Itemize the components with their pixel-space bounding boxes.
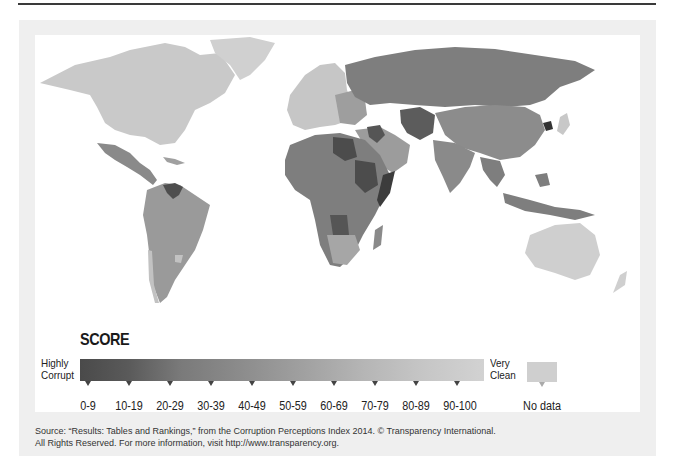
region-southeast-asia (480, 157, 595, 220)
world-map (35, 35, 640, 325)
tick-marker (454, 381, 460, 386)
tick-marker (126, 381, 132, 386)
legend-no-data-swatch (527, 362, 557, 382)
label-line: Clean (490, 369, 516, 381)
range-label: 60-69 (320, 399, 348, 413)
legend-title: SCORE (80, 330, 129, 350)
range-label: 70-79 (361, 399, 389, 413)
tick-marker (85, 381, 91, 386)
source-line: Source: “Results: Tables and Rankings,” … (35, 425, 635, 437)
legend-very-clean-label: Very Clean (490, 357, 516, 381)
source-line: All Rights Reserved. For more informatio… (35, 437, 635, 449)
range-label: 80-89 (402, 399, 430, 413)
range-label: 10-19 (115, 399, 143, 413)
label-line: Very (490, 357, 516, 369)
range-label: 20-29 (156, 399, 184, 413)
region-central-asia (400, 107, 435, 140)
tick-marker (167, 381, 173, 386)
label-line: Highly (41, 357, 74, 369)
region-madagascar (373, 225, 383, 250)
region-central-america (97, 143, 157, 185)
region-angola (330, 215, 349, 235)
tick-marker (331, 381, 337, 386)
tick-marker (413, 381, 419, 386)
region-new-zealand (613, 271, 627, 293)
tick-marker (249, 381, 255, 386)
tick-marker (290, 381, 296, 386)
source-citation: Source: “Results: Tables and Rankings,” … (35, 425, 635, 449)
region-russia (345, 47, 595, 107)
region-north-america (40, 43, 235, 145)
no-data-tick-marker (539, 382, 545, 387)
region-japan (557, 113, 570, 135)
label-line: Corrupt (41, 369, 74, 381)
range-label: 50-59 (279, 399, 307, 413)
top-rule (18, 3, 656, 5)
range-label: 40-49 (238, 399, 266, 413)
legend-gradient-bar (80, 359, 484, 381)
region-australia (525, 223, 600, 280)
range-label: 30-39 (197, 399, 225, 413)
legend-highly-corrupt-label: Highly Corrupt (41, 357, 74, 381)
no-data-label: No data (523, 399, 561, 413)
range-label: 0-9 (80, 399, 96, 413)
tick-marker (208, 381, 214, 386)
range-label: 90-100 (443, 399, 477, 413)
region-caribbean (163, 157, 185, 165)
tick-marker (372, 381, 378, 386)
legend-ticks (80, 381, 484, 387)
